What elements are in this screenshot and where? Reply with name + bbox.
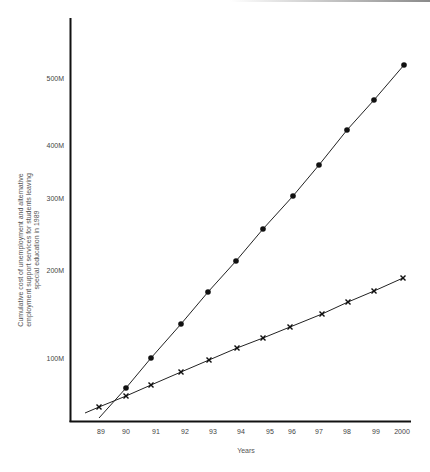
x-marker-icon	[346, 300, 351, 305]
x-tick-label: 95	[266, 428, 274, 435]
y-tick-label: 200M	[46, 267, 64, 274]
circle-marker-icon	[344, 127, 350, 133]
y-axis-title-line-2: employment support services for students…	[25, 173, 33, 327]
line-chart: 100M200M300M400M500M 8990919293949596979…	[0, 0, 430, 472]
y-tick-label: 300M	[46, 195, 64, 202]
y-tick-label: 100M	[46, 355, 64, 362]
circle-marker-icon	[148, 355, 154, 361]
x-marker-icon	[179, 370, 184, 375]
y-tick-label: 500M	[46, 75, 64, 82]
series-lines	[85, 65, 404, 418]
circle-marker-icon	[316, 162, 322, 168]
x-tick-label: 92	[181, 428, 189, 435]
x-axis-title: Years	[237, 447, 255, 454]
x-marker-icon	[149, 383, 154, 388]
x-tick-label: 96	[288, 428, 296, 435]
x-tick-label: 91	[152, 428, 160, 435]
circle-marker-icon	[260, 226, 266, 232]
x-marker-icon	[207, 358, 212, 363]
series-line-circles	[99, 65, 404, 418]
x-tick-label: 94	[237, 428, 245, 435]
circle-marker-icon	[178, 321, 184, 327]
x-tick-label: 90	[122, 428, 130, 435]
y-axis-title: Cumulative cost of unemployment and alte…	[17, 173, 41, 327]
circle-marker-icon	[290, 193, 296, 199]
x-tick-label: 93	[209, 428, 217, 435]
x-marker-icon	[288, 325, 293, 330]
x-marker-icon	[401, 276, 406, 281]
y-tick-label: 400M	[46, 142, 64, 149]
circle-marker-icon	[233, 258, 239, 264]
x-marker-icon	[235, 346, 240, 351]
series-line-crosses	[85, 278, 403, 413]
x-tick-label: 89	[97, 428, 105, 435]
x-tick-label: 2000	[394, 428, 410, 435]
x-tick-label: 99	[372, 428, 380, 435]
x-marker-icon	[97, 405, 102, 410]
circle-marker-icon	[371, 97, 377, 103]
x-marker-icon	[372, 289, 377, 294]
circle-marker-icon	[401, 62, 407, 68]
x-marker-icon	[320, 312, 325, 317]
circle-marker-icon	[123, 385, 129, 391]
x-marker-icon	[261, 336, 266, 341]
y-axis-title-line-1: Cumulative cost of unemployment and alte…	[17, 173, 25, 326]
series-markers	[97, 62, 407, 409]
circle-marker-icon	[205, 289, 211, 295]
x-tick-labels: 89909192939495969798992000	[97, 428, 410, 435]
x-tick-label: 97	[315, 428, 323, 435]
x-marker-icon	[124, 394, 129, 399]
x-tick-label: 98	[343, 428, 351, 435]
y-axis-title-line-3: special education in 1989	[33, 210, 41, 289]
y-tick-labels: 100M200M300M400M500M	[46, 75, 64, 362]
